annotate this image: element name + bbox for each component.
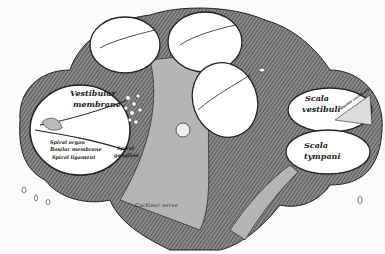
label-scala-vestibuli-line1: Scala [305, 94, 329, 102]
cochlea-cross-section-figure: Vestibular membrane Spiral organ Basilar… [0, 0, 385, 254]
label-vestibular-membrane-line1: Vestibular [70, 89, 116, 97]
label-scala-tympani-line1: Scala [304, 141, 328, 149]
label-scala-tympani-line2: tympani [304, 152, 340, 160]
label-cochlear-nerve: Cochlear nerve [135, 203, 178, 208]
label-spiral-organ: Spiral organ [50, 140, 85, 145]
label-spiral-ganglion-line2: ganglion [114, 153, 139, 158]
label-scala-vestibuli-line2: vestibuli [302, 105, 340, 113]
label-basilar-membrane: Basilar membrane [50, 147, 102, 152]
cochlea-illustration [0, 0, 385, 254]
label-spiral-ganglion-line1: Spiral [117, 146, 134, 151]
apical-chamber-left [90, 17, 160, 73]
apical-chamber-right [168, 12, 242, 72]
label-spiral-ligament: Spiral ligament [52, 155, 95, 160]
modiolus-ganglion-cell [176, 123, 190, 137]
label-vestibular-membrane-line2: membrane [73, 100, 121, 108]
